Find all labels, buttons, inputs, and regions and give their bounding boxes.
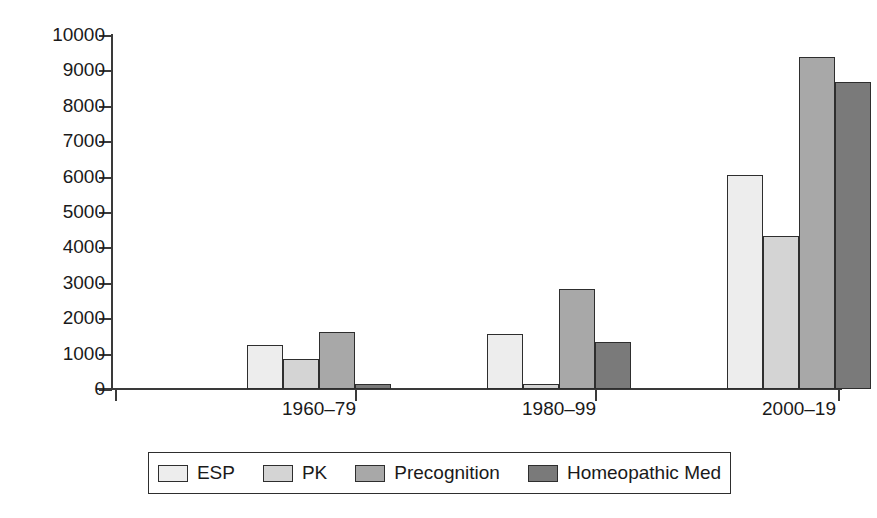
y-tick-label: 0: [94, 378, 105, 400]
bar-chart: 0100020003000400050006000700080009000100…: [0, 0, 877, 518]
legend-label: PK: [302, 462, 327, 484]
bar: [487, 334, 523, 389]
y-tick-label: 5000: [63, 201, 105, 223]
x-axis-group-label: 1960–79: [259, 398, 379, 420]
legend-swatch: [528, 465, 558, 482]
legend-swatch: [355, 465, 385, 482]
bar: [727, 175, 763, 389]
legend-label: Precognition: [394, 462, 500, 484]
legend-item: Homeopathic Med: [528, 462, 721, 484]
bar: [355, 384, 391, 389]
bar: [523, 384, 559, 389]
x-axis-group-label: 2000–19: [739, 398, 859, 420]
x-tick-mark: [115, 389, 117, 401]
bar: [595, 342, 631, 389]
legend-item: ESP: [158, 462, 235, 484]
bar: [799, 57, 835, 389]
y-tick-label: 6000: [63, 166, 105, 188]
y-tick-label: 2000: [63, 307, 105, 329]
bar: [559, 289, 595, 389]
legend-swatch: [158, 465, 188, 482]
y-tick-label: 3000: [63, 272, 105, 294]
y-tick-label: 1000: [63, 343, 105, 365]
y-tick-label: 9000: [63, 59, 105, 81]
y-tick-label: 4000: [63, 236, 105, 258]
bar: [283, 359, 319, 389]
y-tick-label: 10000: [52, 24, 105, 46]
legend-item: Precognition: [355, 462, 500, 484]
y-tick-label: 8000: [63, 95, 105, 117]
bar: [763, 236, 799, 389]
legend-label: Homeopathic Med: [567, 462, 721, 484]
bar: [247, 345, 283, 389]
bar: [835, 82, 871, 389]
x-axis-group-label: 1980–99: [499, 398, 619, 420]
legend-item: PK: [263, 462, 327, 484]
legend-label: ESP: [197, 462, 235, 484]
bars-layer: [112, 35, 840, 389]
y-tick-label: 7000: [63, 130, 105, 152]
legend-swatch: [263, 465, 293, 482]
chart-legend: ESPPKPrecognitionHomeopathic Med: [148, 452, 731, 494]
bar: [319, 332, 355, 389]
